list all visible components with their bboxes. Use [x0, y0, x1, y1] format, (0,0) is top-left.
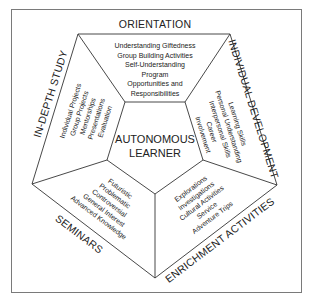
orientation-item: Opportunities and — [127, 80, 182, 88]
orientation-item: Program — [142, 71, 169, 79]
orientation-item: Understanding Giftedness — [115, 42, 196, 50]
orientation-item: Group Building Activities — [117, 52, 193, 60]
center-label-line1: AUTONOMOUS — [115, 133, 195, 145]
section-items-in-depth-study: Individual Projects Group Projects Mento… — [59, 82, 117, 150]
pentagon-diagram: AUTONOMOUS LEARNER ORIENTATION Understan… — [0, 0, 315, 301]
orientation-item: Responsibilities — [131, 90, 180, 98]
orientation-item: Self-Understanding — [125, 61, 185, 69]
section-items-individual-development: Learning Skills Personal Understanding I… — [189, 87, 253, 172]
center-label-line2: LEARNER — [129, 147, 181, 159]
section-items-orientation: Understanding Giftedness Group Building … — [115, 42, 196, 98]
spoke-left — [32, 160, 107, 184]
section-title-orientation: ORIENTATION — [119, 18, 191, 30]
